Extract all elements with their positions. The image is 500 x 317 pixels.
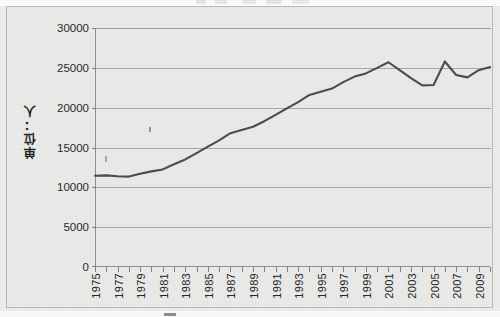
x-axis-tick — [174, 267, 175, 272]
x-axis-tick-label: 1989 — [248, 273, 260, 299]
x-axis-tick — [298, 267, 299, 272]
x-axis-tick-label: 1999 — [361, 273, 373, 299]
x-axis-tick — [411, 267, 412, 272]
chart-page: 单位：人 050001000015000200002500030000 1975… — [0, 0, 500, 317]
x-axis-tick — [366, 267, 367, 272]
x-axis-tick-label: 2007 — [451, 273, 463, 299]
x-axis-tick-label: 2005 — [429, 273, 441, 299]
y-axis-tick-label: 15000 — [57, 142, 89, 154]
chart-frame: 单位：人 050001000015000200002500030000 1975… — [6, 6, 493, 308]
x-axis-tick-label: 2003 — [406, 273, 418, 299]
x-axis-tick-label: 1983 — [180, 273, 192, 299]
y-axis-tick-label: 30000 — [57, 22, 89, 34]
x-axis-tick — [230, 267, 231, 272]
x-axis-tick — [445, 267, 446, 272]
x-axis-tick — [422, 267, 423, 272]
x-axis-tick — [388, 267, 389, 272]
x-axis-tick — [129, 267, 130, 272]
y-axis-tick-label: 0 — [83, 261, 89, 273]
x-axis-tick — [106, 267, 107, 272]
x-axis-tick — [467, 267, 468, 272]
x-axis-tick — [479, 267, 480, 272]
x-axis-tick — [434, 267, 435, 272]
y-axis-tick-label: 10000 — [57, 181, 89, 193]
x-axis-tick-label: 1981 — [158, 273, 170, 299]
x-axis-tick — [151, 267, 152, 272]
x-axis-tick-label: 2001 — [383, 273, 395, 299]
x-axis-tick-label: 2009 — [474, 273, 486, 299]
cut-off-title-artifact — [196, 0, 316, 4]
x-axis-tick — [264, 267, 265, 272]
x-axis-tick — [309, 267, 310, 272]
x-axis-tick — [219, 267, 220, 272]
page-edge-bottom — [0, 311, 500, 317]
x-axis-tick — [253, 267, 254, 272]
y-axis-tick-label: 25000 — [57, 62, 89, 74]
x-axis-tick — [118, 267, 119, 272]
y-axis-tick-label: 5000 — [63, 221, 89, 233]
x-axis-tick — [197, 267, 198, 272]
x-axis-tick-label: 1995 — [316, 273, 328, 299]
x-axis-tick-label: 1997 — [338, 273, 350, 299]
x-axis-tick — [242, 267, 243, 272]
x-axis-tick — [185, 267, 186, 272]
x-axis-tick — [140, 267, 141, 272]
x-axis-tick-label: 1993 — [293, 273, 305, 299]
x-axis-tick-label: 1991 — [271, 273, 283, 299]
series-polyline — [95, 61, 490, 176]
x-axis-tick — [276, 267, 277, 272]
scan-speck — [149, 127, 151, 132]
y-axis-title: 单位：人 — [21, 103, 40, 159]
x-axis-tick-label: 1987 — [225, 273, 237, 299]
x-axis-tick — [332, 267, 333, 272]
x-axis-tick-label: 1985 — [203, 273, 215, 299]
x-axis-tick — [377, 267, 378, 272]
scan-speck — [105, 156, 107, 162]
x-axis-tick — [95, 267, 96, 272]
x-axis-tick — [208, 267, 209, 272]
x-axis-tick — [355, 267, 356, 272]
x-axis-tick — [321, 267, 322, 272]
x-axis-tick — [163, 267, 164, 272]
x-axis-tick-label: 1979 — [135, 273, 147, 299]
data-series-line — [95, 28, 490, 267]
y-axis-tick-label: 20000 — [57, 102, 89, 114]
x-axis-tick — [490, 267, 491, 272]
x-axis-tick — [343, 267, 344, 272]
cut-off-caption-artifact — [164, 313, 176, 316]
x-axis-tick — [456, 267, 457, 272]
x-axis-tick-label: 1975 — [90, 273, 102, 299]
x-axis-tick — [287, 267, 288, 272]
x-axis-tick-label: 1977 — [113, 273, 125, 299]
x-axis-tick — [400, 267, 401, 272]
